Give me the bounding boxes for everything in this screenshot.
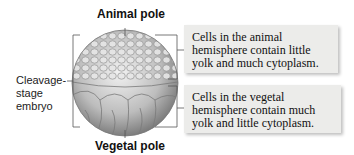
animal-pole-label: Animal pole	[97, 7, 165, 21]
side-label-line: Cleavage-	[16, 74, 66, 87]
vegetal-hemisphere-callout: Cells in the vegetal hemisphere contain …	[184, 85, 341, 133]
vegetal-pole-label: Vegetal pole	[95, 139, 165, 153]
cleavage-stage-label: Cleavage- stage embryo	[16, 74, 66, 113]
side-label-line: embryo	[16, 100, 66, 113]
animal-hemisphere-callout: Cells in the animal hemisphere contain l…	[184, 25, 338, 73]
side-label-line: stage	[16, 87, 66, 100]
embryo-diagram: Animal pole Vegetal pole Cleavage- stage…	[0, 0, 354, 155]
